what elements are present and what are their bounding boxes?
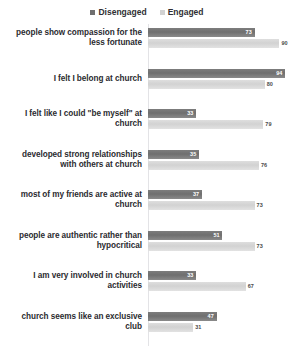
bar-engaged[interactable] (148, 282, 246, 291)
bar-engaged[interactable] (148, 120, 263, 129)
bar-row: 33 (148, 109, 294, 118)
bar-group: 3379 (148, 109, 294, 131)
bar-group: 3367 (148, 271, 294, 293)
bar-disengaged[interactable] (148, 69, 285, 78)
bar-row: 73 (148, 201, 294, 210)
bar-value-label: 76 (261, 161, 267, 170)
legend-label-disengaged: Disengaged (98, 8, 146, 17)
bar-row: 76 (148, 161, 294, 170)
bar-value-label: 51 (213, 231, 219, 240)
legend-label-engaged: Engaged (168, 8, 204, 17)
square-swatch-icon (90, 10, 95, 15)
bar-row: 79 (148, 120, 294, 129)
bar-row: 37 (148, 190, 294, 199)
category-label: I felt I belong at church (4, 74, 142, 84)
bar-value-label: 31 (195, 323, 201, 332)
bar-row: 33 (148, 271, 294, 280)
bar-value-label: 33 (187, 271, 193, 280)
bar-group: 7390 (148, 28, 294, 50)
plot-area: people show compassion for the less fort… (0, 24, 294, 348)
legend-item-disengaged[interactable]: Disengaged (90, 8, 146, 17)
category-label: I am very involved in church activities (4, 271, 142, 291)
category-label: people show compassion for the less fort… (4, 28, 142, 48)
grouped-bar-chart: Disengaged Engaged people show compassio… (0, 0, 294, 351)
bar-value-label: 73 (257, 201, 263, 210)
bar-group: 9480 (148, 69, 294, 91)
bar-row: 51 (148, 231, 294, 240)
bar-disengaged[interactable] (148, 28, 255, 37)
category-label: church seems like an exclusive club (4, 312, 142, 332)
legend-item-engaged[interactable]: Engaged (160, 8, 204, 17)
bar-value-label: 94 (276, 69, 282, 78)
bar-engaged[interactable] (148, 39, 279, 48)
bar-disengaged[interactable] (148, 312, 217, 321)
bar-row: 31 (148, 323, 294, 332)
bar-value-label: 37 (193, 190, 199, 199)
chart-legend: Disengaged Engaged (0, 6, 294, 18)
bar-row: 73 (148, 28, 294, 37)
bar-engaged[interactable] (148, 242, 255, 251)
bar-group: 3576 (148, 150, 294, 172)
bar-disengaged[interactable] (148, 231, 222, 240)
bar-value-label: 80 (267, 80, 273, 89)
bar-group: 4731 (148, 312, 294, 334)
bar-row: 90 (148, 39, 294, 48)
bar-value-label: 67 (248, 282, 254, 291)
bar-value-label: 73 (246, 28, 252, 37)
bar-engaged[interactable] (148, 161, 259, 170)
bar-group: 5173 (148, 231, 294, 253)
bar-row: 67 (148, 282, 294, 291)
bar-value-label: 33 (187, 109, 193, 118)
category-label: people are authentic rather than hypocri… (4, 231, 142, 251)
category-label: most of my friends are active at church (4, 190, 142, 210)
square-swatch-icon (160, 10, 165, 15)
bar-group: 3773 (148, 190, 294, 212)
bar-engaged[interactable] (148, 80, 265, 89)
bar-row: 47 (148, 312, 294, 321)
bar-value-label: 79 (265, 120, 271, 129)
bar-row: 35 (148, 150, 294, 159)
bar-value-label: 35 (190, 150, 196, 159)
chart-title-clipped (0, 0, 294, 4)
bar-row: 94 (148, 69, 294, 78)
category-label: developed strong relationships with othe… (4, 150, 142, 170)
bar-row: 73 (148, 242, 294, 251)
bar-engaged[interactable] (148, 201, 255, 210)
bar-row: 80 (148, 80, 294, 89)
bar-value-label: 47 (208, 312, 214, 321)
bar-engaged[interactable] (148, 323, 193, 332)
bar-value-label: 90 (281, 39, 287, 48)
bar-value-label: 73 (257, 242, 263, 251)
category-label: I felt like I could "be myself" at churc… (4, 109, 142, 129)
